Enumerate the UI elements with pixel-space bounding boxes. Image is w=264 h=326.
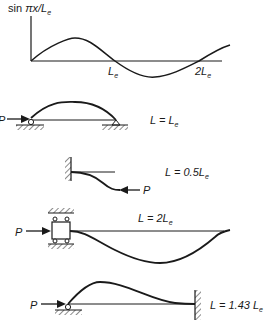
pin-support-icon xyxy=(112,120,120,125)
load-label: P xyxy=(143,184,151,196)
case-pinned-fixed: P L = 1.43 Le xyxy=(30,282,263,320)
buckled-shape xyxy=(70,230,230,263)
length-label: L = 2Le xyxy=(138,212,173,226)
sine-plot: sin πx/Le Le 2Le xyxy=(8,2,230,79)
length-equation: L = 0.5Le xyxy=(165,166,209,180)
wall-hatch-icon xyxy=(65,157,71,181)
tick-le: Le xyxy=(108,65,118,79)
sliding-block-icon xyxy=(52,222,70,239)
buckled-shape xyxy=(31,102,116,120)
load-label: P xyxy=(15,226,23,238)
case-pinned-pinned: P L = Le xyxy=(0,102,179,130)
load-label: P xyxy=(0,114,6,126)
buckling-modes-diagram: sin πx/Le Le 2Le P L = Le P L = 0.5Le P xyxy=(0,0,264,326)
roller-icon xyxy=(53,217,57,221)
length-equation: L = Le xyxy=(150,114,179,128)
guide-hatch-bottom-icon xyxy=(48,244,74,249)
roller-icon xyxy=(28,119,33,124)
ground-hatch-icon xyxy=(55,310,82,315)
load-label: P xyxy=(30,299,38,311)
length-equation: L = 1.43 Le xyxy=(210,299,263,313)
arrow-head-icon xyxy=(42,227,51,235)
case-guided-free: P L = 2Le xyxy=(15,208,230,263)
ground-hatch-icon xyxy=(102,125,128,130)
buckled-shape xyxy=(71,172,120,190)
ground-hatch-icon xyxy=(16,125,44,130)
arrow-head-icon xyxy=(57,300,66,308)
roller-icon xyxy=(65,304,70,309)
wall-hatch-icon xyxy=(195,290,201,320)
tick-2le: 2Le xyxy=(194,65,211,79)
arrow-head-icon xyxy=(119,186,128,194)
y-axis-label: sin πx/Le xyxy=(8,2,51,16)
buckled-shape xyxy=(68,282,195,304)
guide-hatch-top-icon xyxy=(48,208,74,213)
roller-icon xyxy=(53,239,57,243)
roller-icon xyxy=(65,217,69,221)
roller-icon xyxy=(65,239,69,243)
case-fixed-free: P L = 0.5Le xyxy=(65,157,209,196)
